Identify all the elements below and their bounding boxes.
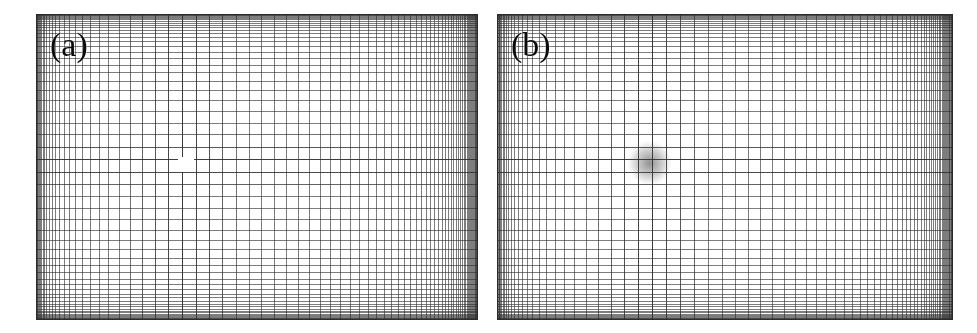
mesh-panel-a: (a) bbox=[36, 14, 478, 320]
mesh-canvas-b bbox=[497, 14, 953, 320]
square-obstacle-void bbox=[178, 157, 194, 172]
mesh-canvas-a bbox=[36, 14, 478, 320]
mesh-figure: (a) (b) bbox=[0, 0, 977, 333]
mesh-panel-b: (b) bbox=[497, 14, 953, 320]
